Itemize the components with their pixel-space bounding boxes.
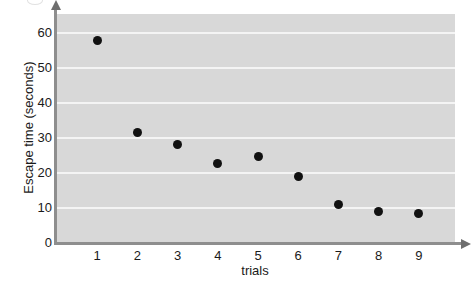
data-point: [294, 172, 303, 181]
gridline: [57, 102, 455, 104]
x-tick-label: 8: [364, 248, 394, 263]
data-point: [414, 209, 423, 218]
data-point: [254, 152, 263, 161]
x-tick-label: 5: [243, 248, 273, 263]
data-point: [374, 207, 383, 216]
gridline: [57, 137, 455, 139]
gridline: [57, 172, 455, 174]
x-tick-label: 9: [404, 248, 434, 263]
y-axis-title: Escape time (seconds): [21, 28, 36, 228]
data-point: [93, 36, 102, 45]
y-tick-label: 0: [18, 235, 52, 250]
scatter-chart: 0102030405060 123456789 Escape time (sec…: [0, 0, 471, 285]
x-tick-label: 1: [82, 248, 112, 263]
plot-area: [57, 14, 455, 242]
y-axis-line: [54, 9, 57, 245]
x-axis-title: trials: [55, 263, 455, 278]
gridline: [57, 67, 455, 69]
x-axis-line: [54, 242, 462, 245]
gridline: [57, 32, 455, 34]
data-point: [133, 128, 142, 137]
gridline: [57, 207, 455, 209]
x-tick-label: 6: [283, 248, 313, 263]
data-point: [213, 159, 222, 168]
data-point: [173, 140, 182, 149]
x-tick-label: 3: [163, 248, 193, 263]
x-tick-label: 4: [203, 248, 233, 263]
data-point: [334, 200, 343, 209]
x-tick-label: 2: [122, 248, 152, 263]
x-tick-label: 7: [323, 248, 353, 263]
